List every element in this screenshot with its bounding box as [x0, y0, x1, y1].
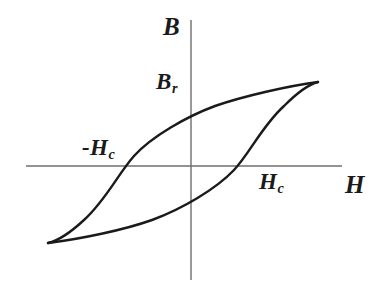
- coercivity-symbol: H: [259, 169, 277, 194]
- hysteresis-upper-branch: [48, 82, 318, 243]
- remanence-subscript: r: [172, 80, 178, 96]
- hysteresis-loop-figure: B Br -Hc Hc H: [0, 0, 379, 293]
- h-axis-label: H: [345, 172, 365, 197]
- hysteresis-plot: [0, 0, 379, 293]
- positive-coercivity-label: Hc: [259, 170, 284, 193]
- coercivity-subscript: c: [108, 146, 115, 162]
- b-axis-label: B: [163, 14, 180, 39]
- remanence-symbol: B: [156, 69, 172, 94]
- minus-sign: -: [82, 135, 90, 160]
- coercivity-subscript: c: [277, 180, 284, 196]
- hysteresis-lower-branch: [48, 82, 318, 243]
- remanence-label: Br: [156, 70, 178, 93]
- negative-coercivity-label: -Hc: [82, 136, 115, 159]
- coercivity-symbol: H: [90, 135, 108, 160]
